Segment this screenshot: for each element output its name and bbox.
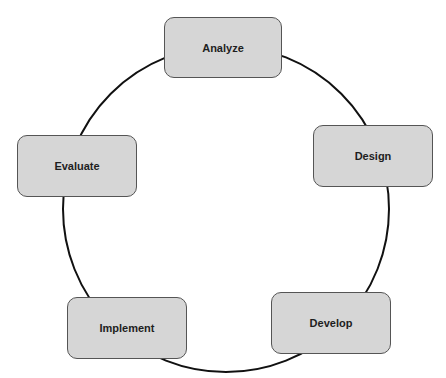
node-analyze: Analyze: [164, 17, 282, 78]
node-label: Design: [355, 150, 392, 162]
node-label: Develop: [310, 317, 353, 329]
node-implement: Implement: [67, 297, 187, 359]
node-label: Analyze: [202, 42, 244, 54]
node-label: Evaluate: [54, 160, 99, 172]
node-design: Design: [313, 125, 433, 187]
node-evaluate: Evaluate: [17, 135, 137, 197]
node-develop: Develop: [271, 292, 391, 354]
node-label: Implement: [99, 322, 154, 334]
